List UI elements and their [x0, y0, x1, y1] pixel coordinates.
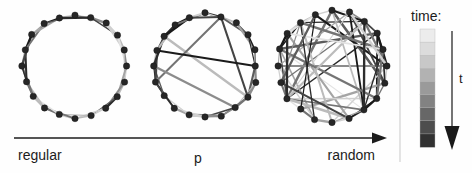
- network-node: [329, 7, 335, 13]
- legend-title-time: time:: [411, 8, 441, 24]
- network-node: [161, 33, 167, 39]
- network-node: [41, 105, 47, 111]
- network-node: [253, 79, 259, 85]
- network-panel-small-world: [151, 10, 259, 121]
- colorbar-cell-5: [420, 95, 435, 108]
- network-node: [103, 20, 109, 26]
- network-node: [121, 47, 127, 53]
- network-node: [232, 104, 238, 110]
- network-node: [218, 113, 224, 119]
- network-node: [72, 115, 78, 121]
- network-node: [374, 30, 380, 36]
- network-node: [233, 20, 239, 26]
- network-node: [28, 31, 34, 37]
- network-node: [56, 111, 62, 117]
- colorbar-cell-8: [420, 134, 435, 147]
- network-node: [361, 18, 367, 24]
- time-arrow: [445, 31, 460, 150]
- network-node: [202, 10, 208, 16]
- network-node: [30, 93, 36, 99]
- network-edge: [25, 24, 44, 50]
- network-node: [382, 80, 388, 86]
- time-colorbar: [420, 29, 435, 147]
- network-node: [245, 32, 251, 38]
- network-node: [276, 46, 282, 52]
- network-node: [374, 95, 380, 101]
- network-node: [123, 63, 129, 69]
- network-node: [312, 12, 318, 18]
- network-edge: [221, 17, 248, 97]
- axis-label-regular: regular: [18, 147, 62, 163]
- network-node: [22, 47, 28, 53]
- network-node: [298, 106, 304, 112]
- network-edge: [350, 12, 387, 66]
- network-node: [245, 94, 251, 100]
- network-figure-svg: regular p random time: t: [0, 0, 472, 173]
- network-node: [252, 63, 258, 69]
- network-node: [72, 12, 78, 18]
- network-panels: [19, 7, 390, 126]
- p-axis: regular p random: [14, 133, 387, 167]
- network-node: [102, 105, 108, 111]
- network-node: [252, 47, 258, 53]
- colorbar-cell-0: [420, 29, 435, 42]
- network-node: [329, 119, 335, 125]
- network-node: [218, 14, 224, 20]
- axis-label-random: random: [328, 147, 375, 163]
- network-node: [284, 30, 290, 36]
- network-node: [278, 79, 284, 85]
- network-node: [275, 63, 281, 69]
- network-edge: [164, 36, 248, 97]
- network-panel-regular: [19, 12, 130, 122]
- network-node: [151, 63, 157, 69]
- network-panel-random: [275, 7, 390, 126]
- colorbar-cell-4: [420, 81, 435, 94]
- network-node: [297, 19, 303, 25]
- time-legend: time: t: [411, 8, 463, 150]
- network-node: [380, 46, 386, 52]
- network-node: [41, 20, 47, 26]
- network-node: [186, 15, 192, 21]
- network-node: [114, 93, 120, 99]
- colorbar-cell-3: [420, 68, 435, 81]
- network-edge: [189, 17, 221, 18]
- network-node: [361, 107, 367, 113]
- colorbar-cell-6: [420, 108, 435, 121]
- colorbar-cell-7: [420, 121, 435, 134]
- network-node: [311, 116, 317, 122]
- network-node: [172, 22, 178, 28]
- network-node: [202, 114, 208, 120]
- network-node: [152, 79, 158, 85]
- network-edge: [157, 50, 255, 66]
- axis-label-p: p: [194, 150, 202, 166]
- network-node: [346, 115, 352, 121]
- colorbar-cell-1: [420, 42, 435, 55]
- network-node: [56, 15, 62, 21]
- colorbar-cell-2: [420, 55, 435, 68]
- network-node: [154, 47, 160, 53]
- network-node: [88, 14, 94, 20]
- network-node: [114, 32, 120, 38]
- p-axis-arrowhead-icon: [372, 133, 387, 144]
- network-node: [88, 112, 94, 118]
- network-node: [284, 96, 290, 102]
- network-node: [346, 9, 352, 15]
- time-arrow-head-icon: [445, 126, 460, 150]
- network-edge: [154, 66, 235, 108]
- network-node: [186, 112, 192, 118]
- figure-root: regular p random time: t: [0, 0, 472, 173]
- network-node: [23, 79, 29, 85]
- network-node: [121, 79, 127, 85]
- network-node: [161, 92, 167, 98]
- network-node: [171, 105, 177, 111]
- legend-label-t: t: [459, 71, 463, 86]
- network-node: [384, 63, 390, 69]
- network-node: [19, 63, 25, 69]
